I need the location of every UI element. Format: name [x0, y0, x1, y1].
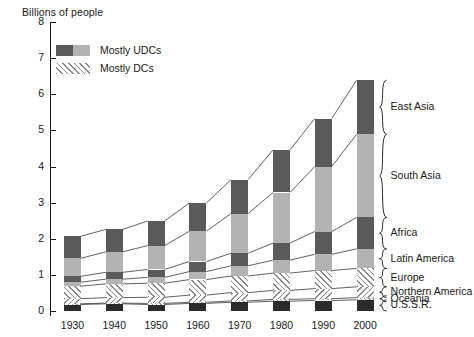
segment-latin-america [273, 260, 290, 273]
y-tick-label: 2 [30, 232, 44, 244]
segment-africa [64, 276, 81, 282]
segment-africa [189, 262, 206, 272]
segment-northern-america [189, 295, 206, 302]
segment-east-asia [106, 229, 123, 251]
segment-oceania [357, 298, 374, 300]
segment-northern-america [231, 293, 248, 301]
region-label-east-asia: East Asia [391, 100, 435, 112]
segment-oceania [64, 304, 81, 305]
y-tick [51, 311, 56, 312]
legend-label-dc: Mostly DCs [100, 62, 154, 74]
segment-u-s-s-r [231, 302, 248, 311]
segment-northern-america [315, 289, 332, 299]
segment-latin-america [231, 266, 248, 276]
region-label-south-asia: South Asia [391, 169, 441, 181]
bar-1960 [189, 22, 206, 311]
segment-south-asia [231, 214, 248, 254]
y-tick-label: 3 [30, 196, 44, 208]
segment-oceania [148, 303, 165, 304]
segment-oceania [189, 302, 206, 303]
segment-south-asia [315, 167, 332, 232]
bar-1970 [231, 22, 248, 311]
legend-swatch-dc [56, 63, 90, 74]
x-tick-label-1930: 1930 [53, 319, 93, 331]
x-tick-label-1970: 1970 [220, 319, 260, 331]
bar-1980 [273, 22, 290, 311]
segment-europe [106, 284, 123, 298]
segment-east-asia [357, 80, 374, 134]
segment-africa [148, 270, 165, 278]
segment-africa [357, 217, 374, 248]
segment-u-s-s-r [189, 303, 206, 311]
segment-south-asia [357, 134, 374, 217]
segment-latin-america [189, 272, 206, 280]
segment-latin-america [64, 282, 81, 286]
bar-1990 [315, 22, 332, 311]
segment-africa [106, 272, 123, 279]
segment-europe [315, 271, 332, 289]
segment-latin-america [357, 249, 374, 269]
y-tick-label: 1 [30, 268, 44, 280]
x-tick-label-2000: 2000 [345, 319, 385, 331]
x-tick-label-1980: 1980 [262, 319, 302, 331]
segment-northern-america [273, 290, 290, 299]
segment-east-asia [315, 119, 332, 167]
segment-latin-america [148, 277, 165, 283]
segment-europe [357, 268, 374, 286]
segment-south-asia [148, 246, 165, 270]
segment-northern-america [64, 299, 81, 304]
segment-europe [64, 286, 81, 299]
segment-u-s-s-r [64, 305, 81, 312]
legend-swatch-udc [56, 45, 90, 56]
segment-europe [231, 276, 248, 293]
segment-oceania [106, 303, 123, 304]
x-tick-label-1990: 1990 [303, 319, 343, 331]
segment-east-asia [64, 236, 81, 258]
legend-swatch-udc-light [73, 45, 90, 56]
legend-swatch-udc-dark [56, 45, 73, 56]
segment-northern-america [106, 298, 123, 303]
chart-figure: Billions of people 012345678 19301940195… [0, 0, 474, 337]
legend-label-udc: Mostly UDCs [100, 44, 161, 56]
x-tick-label-1960: 1960 [178, 319, 218, 331]
segment-africa [273, 243, 290, 260]
x-tick-label-1940: 1940 [94, 319, 134, 331]
x-tick-label-1950: 1950 [136, 319, 176, 331]
segment-latin-america [106, 279, 123, 284]
segment-europe [148, 283, 165, 297]
segment-east-asia [231, 180, 248, 214]
segment-oceania [315, 299, 332, 301]
y-tick-label: 8 [30, 15, 44, 27]
region-label-latin-america: Latin America [391, 252, 455, 264]
bar-2000 [357, 22, 374, 311]
segment-northern-america [357, 287, 374, 298]
segment-latin-america [315, 254, 332, 270]
y-tick-label: 5 [30, 123, 44, 135]
segment-oceania [231, 301, 248, 302]
y-tick-label: 7 [30, 51, 44, 63]
segment-africa [315, 232, 332, 255]
segment-south-asia [273, 193, 290, 244]
region-label-europe: Europe [391, 271, 425, 283]
segment-u-s-s-r [148, 305, 165, 312]
segment-europe [273, 273, 290, 290]
segment-south-asia [189, 231, 206, 261]
y-tick-label: 0 [30, 304, 44, 316]
segment-u-s-s-r [315, 301, 332, 312]
segment-south-asia [106, 252, 123, 273]
plot-area [50, 22, 370, 311]
segment-east-asia [273, 150, 290, 193]
segment-europe [189, 280, 206, 296]
segment-africa [231, 253, 248, 266]
segment-south-asia [64, 258, 81, 276]
segment-u-s-s-r [357, 300, 374, 311]
y-tick-label: 6 [30, 87, 44, 99]
segment-u-s-s-r [273, 301, 290, 311]
segment-northern-america [148, 297, 165, 303]
segment-oceania [273, 299, 290, 301]
segment-east-asia [189, 203, 206, 231]
region-label-u-s-s-r: U.S.S.R. [391, 298, 432, 310]
segment-east-asia [148, 221, 165, 246]
y-tick-label: 4 [30, 160, 44, 172]
segment-u-s-s-r [106, 304, 123, 311]
